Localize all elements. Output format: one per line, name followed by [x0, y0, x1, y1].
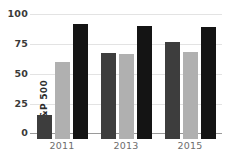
bar-2015-g250[interactable]: [201, 27, 216, 139]
bar-2013-sp500[interactable]: [101, 53, 116, 139]
x-tick-2013: 2013: [94, 140, 158, 154]
plot-area: S&P 500 N100 G250: [30, 8, 222, 139]
x-axis: 2011 2013 2015: [30, 140, 222, 154]
bar-2015-sp500[interactable]: [165, 42, 180, 139]
bar-wrap-2015-g250: [201, 8, 216, 139]
bar-2013-n100[interactable]: [119, 54, 134, 139]
y-tick-0: 0: [2, 128, 28, 138]
bar-chart: 100 75 50 25 0 S&P 500 N100: [0, 0, 225, 156]
x-tick-2011: 2011: [30, 140, 94, 154]
bar-2011-sp500[interactable]: [37, 115, 52, 139]
bar-2013-g250[interactable]: [137, 26, 152, 139]
bar-wrap-2013-n100: [119, 8, 134, 139]
bar-wrap-2013-g250: [137, 8, 152, 139]
bar-wrap-2011-g250: G250: [73, 8, 88, 139]
x-tick-2015: 2015: [158, 140, 222, 154]
bar-wrap-2011-n100: N100: [55, 8, 70, 139]
y-tick-50: 50: [2, 69, 28, 79]
bar-2015-n100[interactable]: [183, 52, 198, 139]
y-tick-100: 100: [2, 9, 28, 19]
bar-wrap-2015-sp500: [165, 8, 180, 139]
bar-group-2013: [94, 8, 158, 139]
y-tick-25: 25: [2, 99, 28, 109]
bar-groups: S&P 500 N100 G250: [30, 8, 222, 139]
y-axis: 100 75 50 25 0: [0, 8, 28, 139]
bar-wrap-2013-sp500: [101, 8, 116, 139]
bar-group-2015: [158, 8, 222, 139]
bar-wrap-2015-n100: [183, 8, 198, 139]
y-tick-75: 75: [2, 39, 28, 49]
bar-2011-g250[interactable]: [73, 24, 88, 139]
bar-2011-n100[interactable]: [55, 62, 70, 139]
bar-wrap-2011-sp500: S&P 500: [37, 8, 52, 139]
bar-group-2011: S&P 500 N100 G250: [30, 8, 94, 139]
